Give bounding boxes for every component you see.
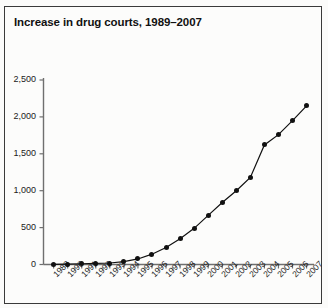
y-tick-label: 1,000	[2, 185, 36, 195]
data-point-2003	[248, 175, 253, 180]
chart-figure: Increase in drug courts, 1989–2007 05001…	[0, 0, 328, 308]
data-point-1998	[178, 236, 183, 241]
data-point-1999	[192, 226, 197, 231]
y-tick-label: 0	[2, 259, 36, 269]
data-point-1993	[107, 261, 112, 266]
data-point-2000	[206, 213, 211, 218]
y-tick-label: 2,500	[2, 74, 36, 84]
data-point-1997	[164, 245, 169, 250]
y-tick-label: 500	[2, 222, 36, 232]
y-tick-label: 1,500	[2, 148, 36, 158]
data-point-2001	[220, 200, 225, 205]
data-point-2002	[234, 188, 239, 193]
y-tick-label: 2,000	[2, 111, 36, 121]
data-point-1990	[65, 262, 70, 267]
